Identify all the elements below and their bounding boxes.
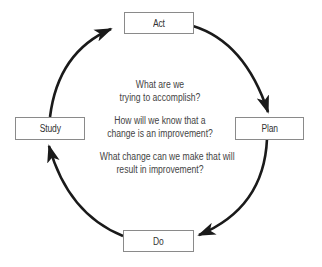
node-study: Study [15,117,85,140]
question-aim: What are we trying to accomplish? [90,78,230,104]
node-study-label: Study [40,123,61,134]
question-change: What change can we make that will result… [90,150,230,176]
node-do-label: Do [153,236,164,247]
node-do: Do [123,230,194,252]
center-questions: What are we trying to accomplish? How wi… [90,78,230,186]
question-measure: How will we know that a change is an imp… [90,114,230,140]
node-plan: Plan [235,117,304,140]
node-act-label: Act [153,18,165,29]
node-act: Act [124,12,194,34]
node-plan-label: Plan [261,123,277,134]
